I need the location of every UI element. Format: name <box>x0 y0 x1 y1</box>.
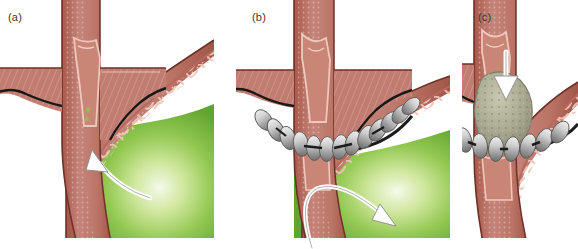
panel-c: (c) <box>462 0 578 249</box>
figure-three-panel-illustration: (a) <box>0 0 578 249</box>
panel-b: (b) <box>236 0 450 249</box>
panel-b-label: (b) <box>252 11 266 23</box>
panel-b-artwork <box>236 0 450 249</box>
panel-a-artwork <box>0 0 214 249</box>
panel-c-artwork <box>462 0 578 249</box>
panel-a-label: (a) <box>8 11 22 23</box>
panel-a: (a) <box>0 0 214 249</box>
panel-c-label: (c) <box>478 11 491 23</box>
